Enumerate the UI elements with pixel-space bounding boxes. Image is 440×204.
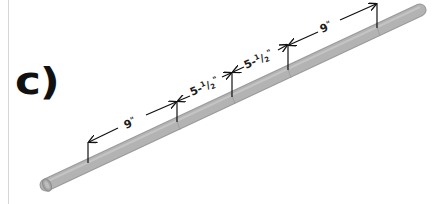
pipe <box>41 7 420 193</box>
dimension-label-2: 5-1/2" <box>188 75 221 100</box>
svg-text:5-1/2": 5-1/2" <box>188 75 221 100</box>
dimension-label-3: 5-1/2" <box>242 48 275 73</box>
svg-text:9": 9" <box>122 115 138 132</box>
svg-text:9": 9" <box>318 19 334 36</box>
dimension-label-1: 9" <box>122 115 138 132</box>
svg-text:5-1/2": 5-1/2" <box>242 48 275 73</box>
dimension-label-4: 9" <box>318 19 334 36</box>
pipe-diagram: 9" 5-1/2" 5-1/2" 9" <box>0 0 440 204</box>
